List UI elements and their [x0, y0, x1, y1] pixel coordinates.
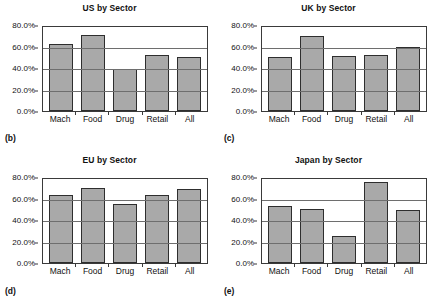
gridline [262, 69, 426, 70]
gridline [262, 243, 426, 244]
bar [113, 204, 137, 263]
gridline [43, 69, 207, 70]
y-axis-tick [35, 26, 38, 27]
y-axis-tick-label: 0.0% [236, 260, 254, 268]
panel-label: (c) [224, 133, 234, 143]
bar [364, 55, 388, 111]
y-axis-tick [35, 264, 38, 265]
plot-area [261, 178, 427, 264]
y-axis-tick-label: 80.0% [12, 174, 35, 182]
bar [268, 57, 292, 111]
x-axis-tick-label: Drug [329, 266, 359, 276]
y-axis-tick-label: 0.0% [17, 260, 35, 268]
x-axis-labels: MachFoodDrugRetailAll [261, 114, 427, 124]
x-axis-tick-label: All [394, 114, 424, 124]
chart-title: UK by Sector [219, 3, 438, 13]
y-axis-tick-label: 80.0% [12, 22, 35, 30]
bar [332, 236, 356, 263]
y-axis-tick [35, 242, 38, 243]
y-axis-tick [35, 47, 38, 48]
x-axis-labels: MachFoodDrugRetailAll [42, 114, 208, 124]
bar [177, 57, 201, 111]
y-axis: 0.0%20.0%40.0%60.0%80.0% [219, 26, 257, 112]
gridline [262, 91, 426, 92]
y-axis-tick-label: 40.0% [231, 217, 254, 225]
gridline [262, 200, 426, 201]
bar [145, 55, 169, 111]
x-axis-tick-label: Food [297, 114, 327, 124]
x-axis-tick-label: Food [78, 114, 108, 124]
chart-panel-uk: UK by Sector 0.0%20.0%40.0%60.0%80.0% Ma… [219, 0, 438, 152]
y-axis: 0.0%20.0%40.0%60.0%80.0% [0, 178, 38, 264]
x-axis-tick-label: Mach [45, 114, 75, 124]
y-axis-tick [254, 90, 257, 91]
chart-title: US by Sector [0, 3, 219, 13]
y-axis-tick-label: 40.0% [231, 65, 254, 73]
bar [145, 195, 169, 263]
x-axis-labels: MachFoodDrugRetailAll [42, 266, 208, 276]
y-axis-tick [254, 221, 257, 222]
bar [268, 206, 292, 263]
x-axis-tick-label: Mach [264, 266, 294, 276]
y-axis-tick [254, 26, 257, 27]
x-axis-tick-label: Drug [329, 114, 359, 124]
plot-area [42, 26, 208, 112]
gridline [262, 48, 426, 49]
y-axis: 0.0%20.0%40.0%60.0%80.0% [219, 178, 257, 264]
gridline [43, 243, 207, 244]
y-axis-tick [35, 90, 38, 91]
x-axis-tick-label: Retail [142, 114, 172, 124]
plot-area [42, 178, 208, 264]
y-axis-tick-label: 20.0% [231, 87, 254, 95]
gridline [43, 91, 207, 92]
gridline [262, 221, 426, 222]
x-axis-labels: MachFoodDrugRetailAll [261, 266, 427, 276]
x-axis-tick-label: All [175, 114, 205, 124]
y-axis-tick-label: 0.0% [236, 108, 254, 116]
bar [81, 35, 105, 111]
y-axis-tick-label: 60.0% [12, 44, 35, 52]
y-axis-tick [254, 242, 257, 243]
panel-label: (b) [5, 133, 16, 143]
gridline [43, 221, 207, 222]
y-axis-tick-label: 0.0% [17, 108, 35, 116]
x-axis-tick-label: Retail [361, 266, 391, 276]
panel-label: (d) [5, 286, 16, 296]
y-axis-tick-label: 80.0% [231, 22, 254, 30]
y-axis-tick-label: 20.0% [231, 239, 254, 247]
gridline [43, 200, 207, 201]
x-axis-tick-label: Mach [45, 266, 75, 276]
x-axis-tick-label: Food [297, 266, 327, 276]
y-axis-tick-label: 80.0% [231, 174, 254, 182]
x-axis-tick-label: Retail [361, 114, 391, 124]
y-axis-tick [254, 112, 257, 113]
y-axis-tick [254, 264, 257, 265]
bar [49, 44, 73, 111]
y-axis-tick [35, 69, 38, 70]
x-axis-tick-label: Drug [110, 266, 140, 276]
y-axis-tick-label: 60.0% [12, 196, 35, 204]
y-axis-tick [254, 69, 257, 70]
y-axis-tick [35, 221, 38, 222]
y-axis-tick [254, 47, 257, 48]
x-axis-tick-label: All [175, 266, 205, 276]
y-axis-tick [254, 199, 257, 200]
chart-title: Japan by Sector [219, 155, 438, 165]
chart-title: EU by Sector [0, 155, 219, 165]
chart-panel-eu: EU by Sector 0.0%20.0%40.0%60.0%80.0% Ma… [0, 152, 219, 305]
x-axis-tick-label: Mach [264, 114, 294, 124]
y-axis-tick [254, 178, 257, 179]
bar [396, 47, 420, 112]
y-axis-tick-label: 60.0% [231, 44, 254, 52]
x-axis-tick-label: Retail [142, 266, 172, 276]
x-axis-tick-label: Food [78, 266, 108, 276]
y-axis-tick [35, 199, 38, 200]
x-axis-tick-label: All [394, 266, 424, 276]
panel-label: (e) [224, 286, 234, 296]
bar [332, 56, 356, 111]
bar [49, 195, 73, 263]
gridline [43, 48, 207, 49]
x-axis-tick-label: Drug [110, 114, 140, 124]
y-axis-tick-label: 40.0% [12, 65, 35, 73]
y-axis: 0.0%20.0%40.0%60.0%80.0% [0, 26, 38, 112]
